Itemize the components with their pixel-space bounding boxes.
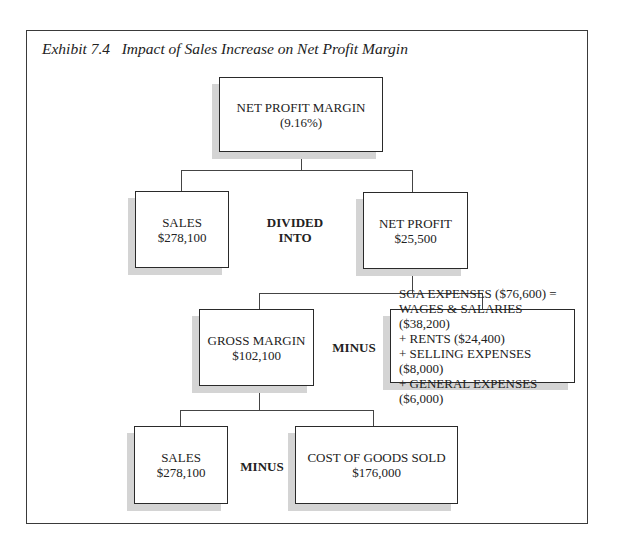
gross-margin-box: GROSS MARGIN $102,100 — [199, 309, 314, 386]
connector-sales-bottom-vertical — [180, 410, 181, 426]
divided-into-operator: DIVIDED INTO — [250, 215, 340, 245]
net-profit-margin-box: NET PROFIT MARGIN (9.16%) — [219, 77, 383, 152]
sga-line-total: SGA EXPENSES ($76,600) = — [399, 286, 557, 301]
net-profit-label: NET PROFIT — [379, 216, 452, 231]
connector-gross-margin-vertical — [259, 293, 260, 309]
sga-line-wages: WAGES & SALARIES ($38,200) — [399, 301, 574, 331]
sga-line-general: + GENERAL EXPENSES ($6,000) — [399, 376, 574, 406]
cogs-label: COST OF GOODS SOLD — [307, 450, 445, 465]
minus-operator-middle: MINUS — [322, 340, 386, 355]
divided-into-line2: INTO — [250, 230, 340, 245]
sga-expenses-box: SGA EXPENSES ($76,600) = WAGES & SALARIE… — [390, 309, 575, 383]
connector-row1-horizontal — [181, 170, 413, 171]
sga-line-rents: + RENTS ($24,400) — [399, 331, 505, 346]
minus-operator-bottom: MINUS — [234, 459, 290, 474]
cogs-value: $176,000 — [352, 465, 401, 480]
sales-top-box: SALES $278,100 — [135, 191, 229, 268]
exhibit-title: Exhibit 7.4 Impact of Sales Increase on … — [42, 40, 408, 58]
net-profit-margin-value: (9.16%) — [280, 115, 322, 130]
sales-top-value: $278,100 — [158, 230, 207, 245]
page-bleed-through — [0, 0, 617, 12]
sales-bottom-box: SALES $278,100 — [134, 426, 228, 504]
sga-line-selling: + SELLING EXPENSES ($8,000) — [399, 346, 574, 376]
sales-top-label: SALES — [162, 215, 202, 230]
connector-cogs-vertical — [373, 410, 374, 426]
connector-net-profit-vertical — [412, 170, 413, 192]
sales-bottom-value: $278,100 — [157, 465, 206, 480]
cogs-box: COST OF GOODS SOLD $176,000 — [295, 426, 458, 504]
net-profit-box: NET PROFIT $25,500 — [363, 192, 468, 269]
net-profit-margin-label: NET PROFIT MARGIN — [237, 100, 366, 115]
gross-margin-value: $102,100 — [232, 348, 281, 363]
net-profit-value: $25,500 — [394, 231, 436, 246]
connector-sales-top-vertical — [181, 170, 182, 191]
gross-margin-label: GROSS MARGIN — [208, 333, 306, 348]
sales-bottom-label: SALES — [161, 450, 201, 465]
divided-into-line1: DIVIDED — [250, 215, 340, 230]
connector-row3-horizontal — [180, 410, 374, 411]
